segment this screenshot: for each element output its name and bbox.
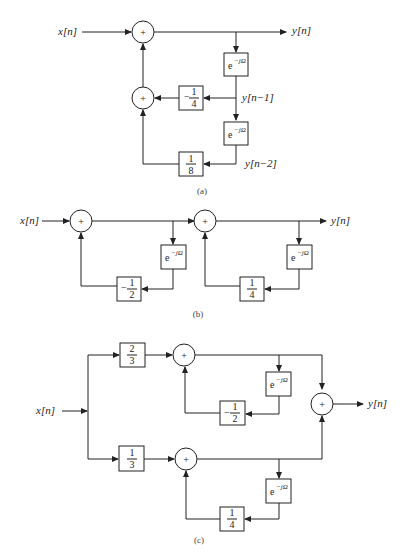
svg-text:8: 8 — [189, 165, 194, 176]
svg-text:+: + — [78, 216, 84, 227]
svg-text:4: 4 — [230, 519, 235, 530]
caption-c: (c) — [194, 535, 204, 545]
svg-text:1: 1 — [192, 86, 197, 97]
diagram-c: x[n] 2 3 + e −jΩ − 1 2 + y[n] 1 3 — [35, 343, 387, 545]
svg-text:1: 1 — [233, 401, 238, 412]
delay-base: e — [228, 60, 233, 71]
svg-text:4: 4 — [192, 98, 197, 109]
adder-symbol: + — [140, 27, 146, 38]
caption-a: (a) — [197, 186, 207, 196]
output-label: y[n] — [291, 24, 311, 36]
svg-text:+: + — [319, 399, 325, 410]
block-diagrams: x[n] + y[n] e −jΩ y[n−1] − 1 4 + e −jΩ y… — [0, 0, 404, 557]
svg-text:e: e — [270, 486, 275, 497]
svg-text:−: − — [224, 407, 230, 418]
svg-text:1: 1 — [189, 153, 194, 164]
input-label: x[n] — [57, 25, 77, 37]
output-label: y[n] — [367, 397, 387, 409]
svg-text:e: e — [165, 252, 170, 263]
svg-text:1: 1 — [250, 277, 255, 288]
svg-text:4: 4 — [250, 289, 255, 300]
svg-text:e: e — [291, 252, 296, 263]
svg-text:1: 1 — [230, 507, 235, 518]
svg-text:3: 3 — [130, 459, 135, 470]
tap2-label: y[n−2] — [244, 157, 277, 169]
svg-text:e: e — [270, 379, 275, 390]
svg-text:−jΩ: −jΩ — [276, 376, 288, 384]
svg-text:−jΩ: −jΩ — [234, 126, 246, 134]
svg-text:+: + — [183, 454, 189, 465]
diagram-b: x[n] + + y[n] e −jΩ − 1 2 e −jΩ 1 4 (b) — [19, 210, 350, 319]
svg-text:2: 2 — [233, 413, 238, 424]
diagram-a: x[n] + y[n] e −jΩ y[n−1] − 1 4 + e −jΩ y… — [57, 21, 311, 196]
svg-text:+: + — [140, 93, 146, 104]
delay-exponent: −jΩ — [234, 57, 246, 65]
svg-text:−jΩ: −jΩ — [171, 249, 183, 257]
svg-text:1: 1 — [130, 447, 135, 458]
svg-text:e: e — [228, 129, 233, 140]
svg-text:−: − — [121, 282, 127, 293]
input-label: x[n] — [35, 404, 55, 416]
input-label: x[n] — [19, 214, 39, 226]
svg-text:1: 1 — [130, 277, 135, 288]
svg-text:+: + — [181, 350, 187, 361]
svg-text:+: + — [202, 216, 208, 227]
svg-text:−: − — [184, 91, 190, 102]
caption-b: (b) — [193, 309, 204, 319]
tap1-label: y[n−1] — [241, 91, 274, 103]
svg-text:−jΩ: −jΩ — [276, 483, 288, 491]
svg-text:2: 2 — [130, 343, 135, 354]
svg-text:−jΩ: −jΩ — [297, 249, 309, 257]
output-label: y[n] — [330, 214, 350, 226]
svg-text:3: 3 — [130, 355, 135, 366]
svg-text:2: 2 — [130, 289, 135, 300]
